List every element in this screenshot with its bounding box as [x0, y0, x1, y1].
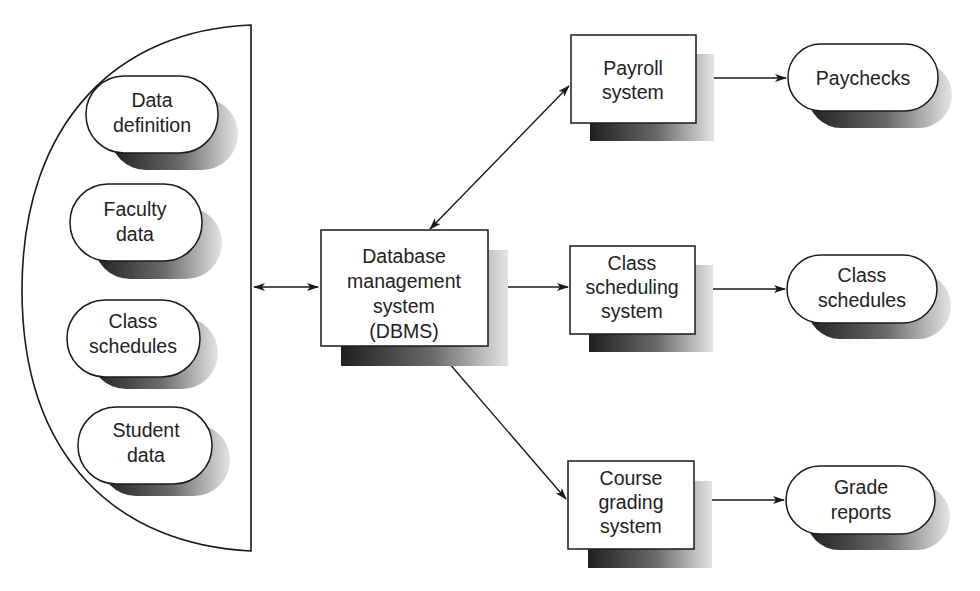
label-line: Class [608, 252, 657, 274]
output-paychecks[interactable]: Paychecks [788, 44, 952, 128]
edge-dbms-payroll [430, 86, 569, 229]
label-line: system [600, 515, 662, 537]
system-box-course-grading[interactable]: Course grading system [568, 461, 712, 568]
label-line: schedules [89, 335, 177, 357]
label-line: scheduling [585, 276, 678, 298]
edge-dbms-course-grading [436, 348, 566, 499]
label-line: data [127, 444, 165, 466]
label-line: definition [113, 114, 191, 136]
label-line: Database [362, 245, 445, 267]
label-line: schedules [818, 289, 906, 311]
output-class-schedules[interactable]: Class schedules [787, 255, 951, 339]
label-line: reports [831, 501, 892, 523]
label-line: system [601, 300, 663, 322]
label-line: Data [131, 89, 172, 111]
label-line: Grade [834, 476, 888, 498]
label-line: management [347, 270, 461, 292]
label-line: data [116, 223, 154, 245]
label-line: system [602, 81, 664, 103]
label-line: Class [109, 310, 158, 332]
label-line: system [373, 295, 435, 317]
label-line: Student [112, 419, 180, 441]
label-line: Faculty [104, 198, 167, 220]
dbms-diagram: Data definition Faculty data Class sched… [0, 0, 980, 591]
system-box-class-scheduling[interactable]: Class scheduling system [570, 246, 713, 352]
label-line: Paychecks [816, 67, 911, 89]
label-line: Course [600, 467, 663, 489]
label-line: Payroll [603, 57, 663, 79]
label-line: grading [598, 491, 663, 513]
dbms-box[interactable]: Database management system (DBMS) [321, 230, 508, 366]
label-line: (DBMS) [369, 320, 438, 342]
label-line: Class [838, 264, 887, 286]
output-grade-reports[interactable]: Grade reports [786, 466, 950, 550]
system-box-payroll[interactable]: Payroll system [571, 35, 714, 141]
